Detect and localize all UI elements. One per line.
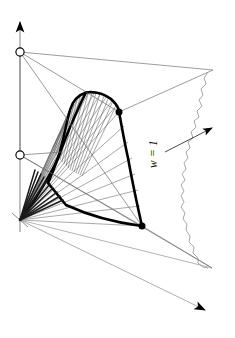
connector-upper-to-dot — [20, 52, 119, 112]
plane-edge-upper-inner — [119, 70, 213, 112]
plane-label-w-equals-1: w = 1 — [147, 140, 159, 168]
axis-point-lower-marker — [16, 151, 24, 159]
plane-edge-lower-inner — [142, 226, 212, 268]
geometric-diagram — [0, 0, 235, 338]
plane-torn-edge — [181, 72, 208, 268]
plane-callout-arrow — [165, 128, 212, 152]
axis-point-upper-marker — [16, 48, 24, 56]
depth-axis — [20, 220, 205, 310]
plane-edge-top — [20, 52, 213, 70]
cone-rim-point-upper-marker — [116, 109, 123, 116]
ground-edge — [20, 220, 212, 268]
figure-canvas: w = 1 — [0, 0, 235, 338]
cone-right-rim — [119, 112, 142, 226]
cone-rim-point-lower-marker — [139, 223, 146, 230]
cone-shading-rulings — [53, 93, 115, 176]
